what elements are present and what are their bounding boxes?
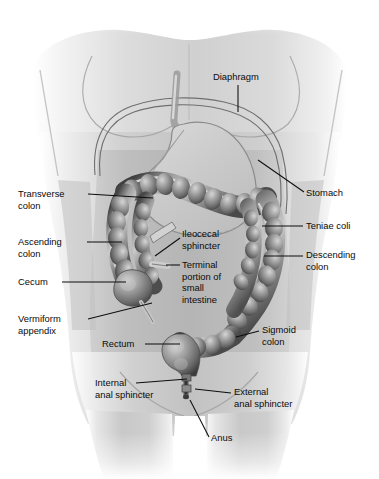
label-line: anal sphincter [234,398,292,409]
label-cecum: Cecum [18,276,48,287]
label-line: Terminal [182,259,217,270]
label-line: sphincter [182,240,220,251]
label-line: colon [18,200,40,211]
rectum-highlight-upper [168,339,184,353]
label-line: Rectum [102,338,134,349]
anus-shape [183,395,189,399]
anatomy-figure: DiaphragmStomachTeniae coliDescendingcol… [0,0,379,479]
label-line: Descending [306,249,356,260]
label-line: Ileocecal [182,228,219,239]
label-ileocecal-sphincter: Ileocecalsphincter [182,228,220,251]
label-line: Diaphragm [213,71,259,82]
label-line: External [234,386,268,397]
top-fade [0,0,379,34]
label-line: colon [18,248,40,259]
label-ascending-colon: Ascendingcolon [18,236,62,259]
label-stomach: Stomach [306,187,343,198]
label-line: Teniae coli [306,220,350,231]
label-teniae-coli: Teniae coli [306,220,350,231]
large-intestine-diagram: DiaphragmStomachTeniae coliDescendingcol… [0,0,379,479]
internal-anal-sphincter-shape [182,374,191,381]
label-rectum: Rectum [102,338,134,349]
label-line: intestine [182,294,217,305]
label-line: Cecum [18,276,48,287]
label-line: appendix [18,325,56,336]
label-line: colon [306,261,328,272]
label-line: colon [262,336,284,347]
label-line: Vermiform [18,313,61,324]
rectum-highlight-lower [174,358,188,370]
label-line: Sigmoid [262,324,296,335]
label-vermiform-appendix: Vermiformappendix [18,313,61,336]
label-line: Internal [95,377,126,388]
label-line: portion of [182,271,221,282]
label-line: Anus [211,432,233,443]
label-line: anal sphincter [95,389,153,400]
label-anus: Anus [211,432,233,443]
label-line: Stomach [306,187,343,198]
label-descending-colon: Descendingcolon [306,249,356,272]
cecum-highlight [120,277,136,291]
label-line: small [182,282,204,293]
label-line: Ascending [18,236,62,247]
bottom-fade [0,432,379,479]
label-diaphragm: Diaphragm [213,71,259,82]
label-line: Transverse [18,188,65,199]
external-anal-sphincter-shape [182,385,191,392]
